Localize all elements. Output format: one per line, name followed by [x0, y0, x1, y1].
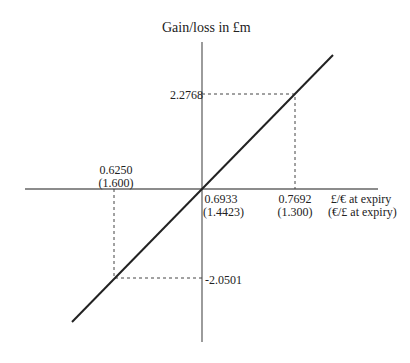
chart-plot [0, 0, 410, 363]
x-tick-07692: 0.7692 (1.300) [277, 193, 313, 219]
chart-title: Gain/loss in £m [162, 21, 251, 34]
y-tick-upper: 2.2768 [170, 89, 203, 102]
x-axis-label: £/€ at expiry (€/£ at expiry) [328, 193, 394, 219]
y-tick-lower: -2.0501 [205, 274, 242, 287]
x-tick-sublabel: (1.300) [277, 206, 313, 219]
x-tick-sublabel: (1.4423) [203, 206, 239, 219]
x-tick-sublabel: (1.600) [96, 177, 136, 190]
x-tick-0625: 0.6250 (1.600) [96, 164, 136, 190]
x-axis-label-secondary: (€/£ at expiry) [328, 206, 394, 219]
x-tick-06933: 0.6933 (1.4423) [203, 193, 239, 219]
